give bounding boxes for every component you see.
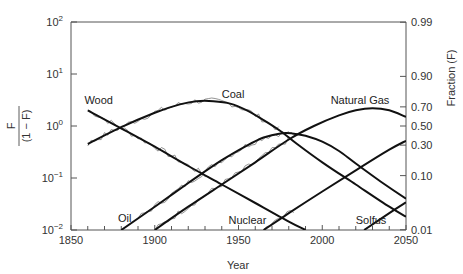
y-right-tick-label: 0.10: [411, 170, 432, 182]
x-axis: 18501900195020002050: [59, 225, 418, 246]
historical-coal: [88, 98, 279, 146]
fitted-curves: [88, 101, 406, 230]
label-solfus: Solfus: [356, 214, 387, 226]
y-right-tick-label: 0.50: [411, 120, 432, 132]
historical-data-lines: [88, 98, 294, 231]
label-natural-gas: Natural Gas: [331, 94, 390, 106]
y-right-tick-label: 0.70: [411, 101, 432, 113]
x-tick-label: 2050: [394, 234, 418, 246]
x-tick-label: 1900: [143, 234, 167, 246]
label-wood: Wood: [84, 94, 113, 106]
substitution-chart: 18501900195020002050 10210110010−110−2 0…: [0, 0, 463, 274]
x-axis-title: Year: [227, 259, 250, 271]
x-tick-label: 1850: [59, 234, 83, 246]
y-left-tick-label: 102: [46, 14, 63, 28]
x-tick-label: 1950: [226, 234, 250, 246]
y-right-tick-label: 0.01: [411, 224, 432, 236]
y-axis-left: 10210110010−110−2: [42, 14, 77, 236]
x-tick-label: 2000: [310, 234, 334, 246]
y-left-tick-label: 101: [46, 66, 63, 80]
y-title-denominator: (1 − F): [20, 110, 32, 143]
label-nuclear: Nuclear: [228, 214, 266, 226]
label-coal: Coal: [222, 88, 245, 100]
y-right-tick-label: 0.99: [411, 16, 432, 28]
y-title-numerator: F: [5, 122, 17, 129]
y-left-tick-label: 100: [46, 118, 63, 132]
y-axis-left-title: F (1 − F): [5, 106, 32, 146]
y-right-tick-label: 0.30: [411, 139, 432, 151]
y-left-tick-label: 10−1: [42, 170, 64, 184]
series-labels: WoodCoalOilNatural GasNuclearSolfus: [84, 88, 389, 226]
y-axis-right-title: Fraction (F): [445, 50, 457, 107]
y-right-tick-label: 0.90: [411, 70, 432, 82]
historical-oil: [138, 132, 289, 219]
label-oil: Oil: [118, 212, 131, 224]
